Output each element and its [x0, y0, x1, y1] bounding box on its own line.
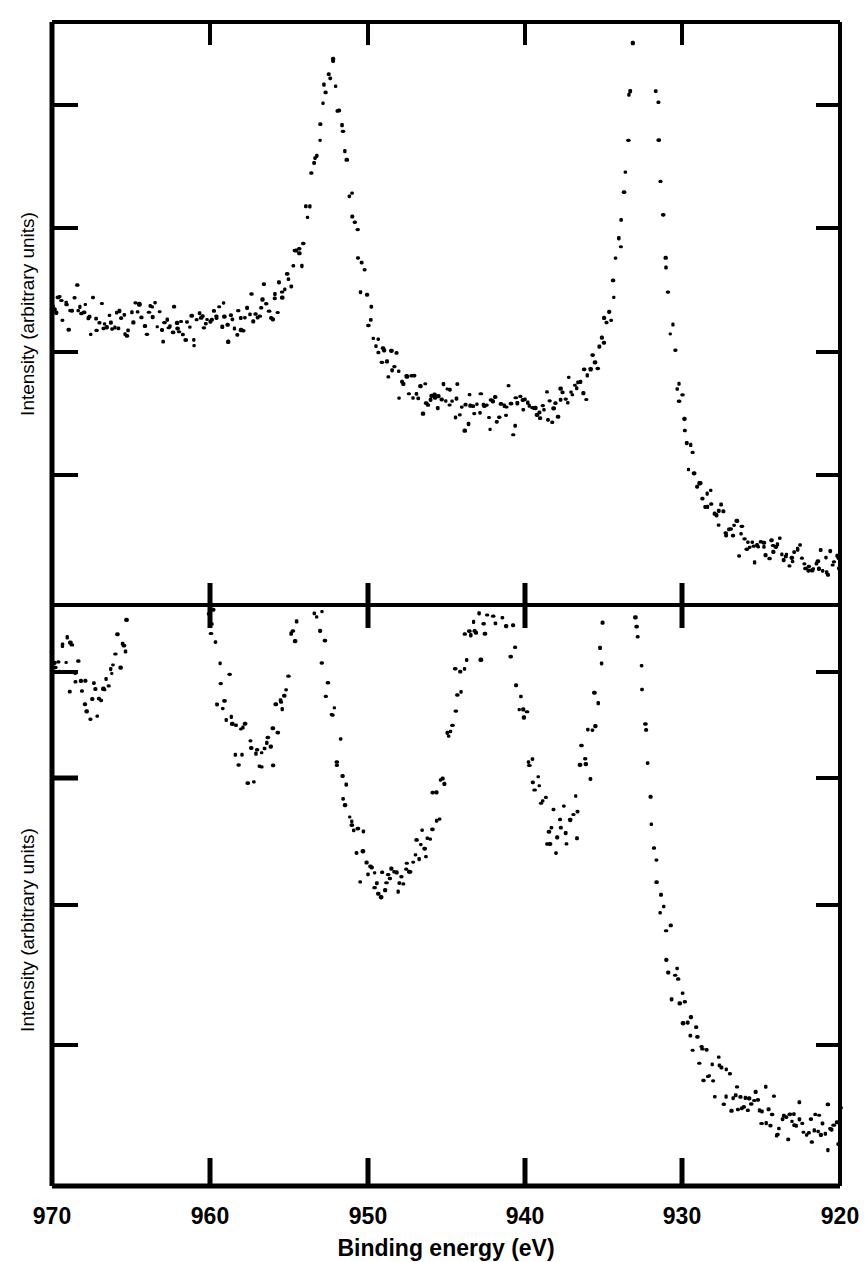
- data-point: [740, 525, 745, 528]
- data-point: [276, 311, 280, 314]
- data-point: [111, 663, 115, 666]
- data-point: [215, 702, 219, 706]
- data-point: [826, 573, 830, 577]
- data-point: [501, 616, 505, 619]
- data-point: [734, 1093, 738, 1097]
- data-point: [74, 680, 78, 684]
- data-point: [511, 433, 515, 436]
- data-point: [724, 1094, 727, 1098]
- data-point: [430, 827, 435, 831]
- data-point: [344, 782, 348, 786]
- data-point: [323, 91, 327, 95]
- data-point: [689, 1034, 693, 1038]
- data-point: [369, 318, 373, 322]
- data-point: [571, 393, 575, 396]
- data-point: [172, 305, 176, 309]
- data-point: [556, 415, 561, 419]
- data-point: [735, 1085, 739, 1088]
- data-point: [82, 311, 87, 315]
- data-point: [260, 297, 264, 301]
- data-point: [104, 325, 108, 329]
- data-point: [222, 301, 225, 304]
- data-point: [685, 441, 689, 445]
- data-point: [189, 314, 194, 318]
- data-point: [724, 534, 728, 538]
- top-panel-y-ticks: [52, 105, 78, 475]
- data-point: [597, 345, 601, 349]
- data-point: [414, 853, 418, 856]
- data-point: [382, 348, 386, 352]
- data-point: [414, 838, 418, 842]
- data-point: [795, 1124, 798, 1128]
- data-point: [365, 860, 369, 864]
- data-point: [798, 543, 802, 546]
- data-point: [722, 1102, 726, 1105]
- data-point: [837, 566, 841, 570]
- data-point: [737, 554, 741, 557]
- data-point: [786, 1138, 790, 1142]
- data-point: [732, 524, 736, 527]
- data-point: [313, 611, 317, 615]
- data-point: [340, 774, 344, 778]
- data-point: [177, 330, 182, 333]
- data-point: [441, 777, 445, 781]
- data-point: [810, 1140, 814, 1144]
- data-point: [504, 405, 508, 408]
- data-point: [90, 697, 94, 701]
- data-point: [475, 402, 478, 405]
- data-point: [321, 101, 324, 105]
- data-point: [831, 563, 835, 566]
- data-point: [350, 823, 355, 827]
- data-point: [590, 353, 595, 357]
- data-point: [759, 1122, 764, 1125]
- data-point: [790, 556, 795, 560]
- data-point: [790, 1120, 793, 1123]
- data-point: [830, 1128, 834, 1132]
- data-point: [376, 892, 381, 896]
- data-point: [53, 666, 57, 669]
- data-point: [383, 888, 387, 892]
- data-point: [408, 870, 412, 874]
- data-point: [259, 306, 263, 310]
- data-point: [768, 1124, 772, 1128]
- data-point: [800, 557, 804, 560]
- data-point: [547, 830, 552, 834]
- data-point: [300, 264, 303, 268]
- data-point: [137, 303, 142, 307]
- data-point: [593, 724, 597, 728]
- data-point: [600, 336, 604, 340]
- data-point: [469, 633, 473, 637]
- data-point: [523, 398, 527, 402]
- data-point: [597, 701, 600, 705]
- data-point: [89, 333, 93, 336]
- data-point: [661, 213, 666, 217]
- data-point: [695, 485, 699, 489]
- data-point: [504, 624, 508, 628]
- data-point: [218, 662, 221, 666]
- data-point: [240, 753, 243, 757]
- data-point: [550, 420, 554, 424]
- data-point: [513, 424, 516, 428]
- bottom-panel-y-ticks: [52, 672, 78, 1045]
- data-point: [664, 256, 668, 260]
- data-point: [419, 843, 423, 846]
- data-point: [356, 256, 360, 259]
- data-point: [222, 315, 227, 319]
- data-point: [136, 310, 140, 313]
- data-point: [365, 293, 369, 297]
- data-point: [640, 688, 644, 692]
- data-point: [226, 323, 230, 327]
- data-point: [497, 416, 501, 419]
- data-point: [680, 393, 685, 396]
- data-point: [711, 1079, 715, 1082]
- data-point: [450, 400, 454, 403]
- data-point: [372, 886, 377, 889]
- data-point: [670, 997, 674, 1001]
- data-point: [598, 646, 602, 650]
- data-point: [343, 149, 346, 153]
- data-point: [649, 795, 653, 799]
- data-point: [717, 509, 721, 513]
- data-point: [447, 403, 451, 406]
- data-point: [401, 882, 405, 885]
- data-point: [792, 1112, 796, 1116]
